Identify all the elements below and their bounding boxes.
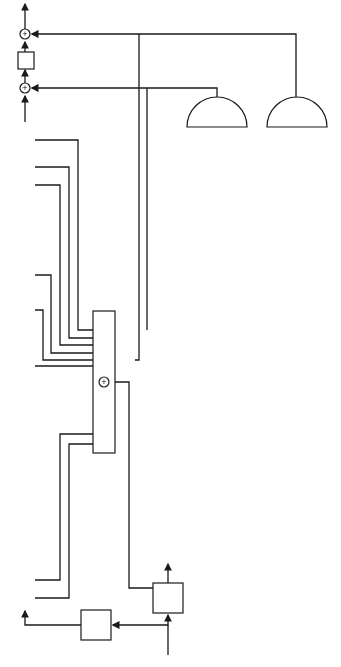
tap-8 <box>35 444 93 598</box>
majority-gate-m2 <box>267 97 327 127</box>
tap-4 <box>35 275 93 353</box>
decoder-diagram: + + + <box>0 0 341 667</box>
gate1-to-register <box>25 611 81 625</box>
xor-symbol: + <box>22 29 27 39</box>
syndrome-bus-a <box>135 34 139 360</box>
tap-7 <box>35 434 93 580</box>
majority-gate-m1 <box>187 97 247 127</box>
xor-to-syndrome <box>115 382 162 588</box>
xor-symbol: + <box>22 83 27 93</box>
xor-symbol: + <box>101 377 106 387</box>
gate-1 <box>81 610 111 640</box>
tap-1 <box>35 140 93 330</box>
tap-3 <box>35 185 93 345</box>
delay-stage <box>18 52 34 69</box>
gate-2 <box>153 583 183 613</box>
tap-2 <box>35 167 93 338</box>
m1-output-line <box>32 88 217 97</box>
